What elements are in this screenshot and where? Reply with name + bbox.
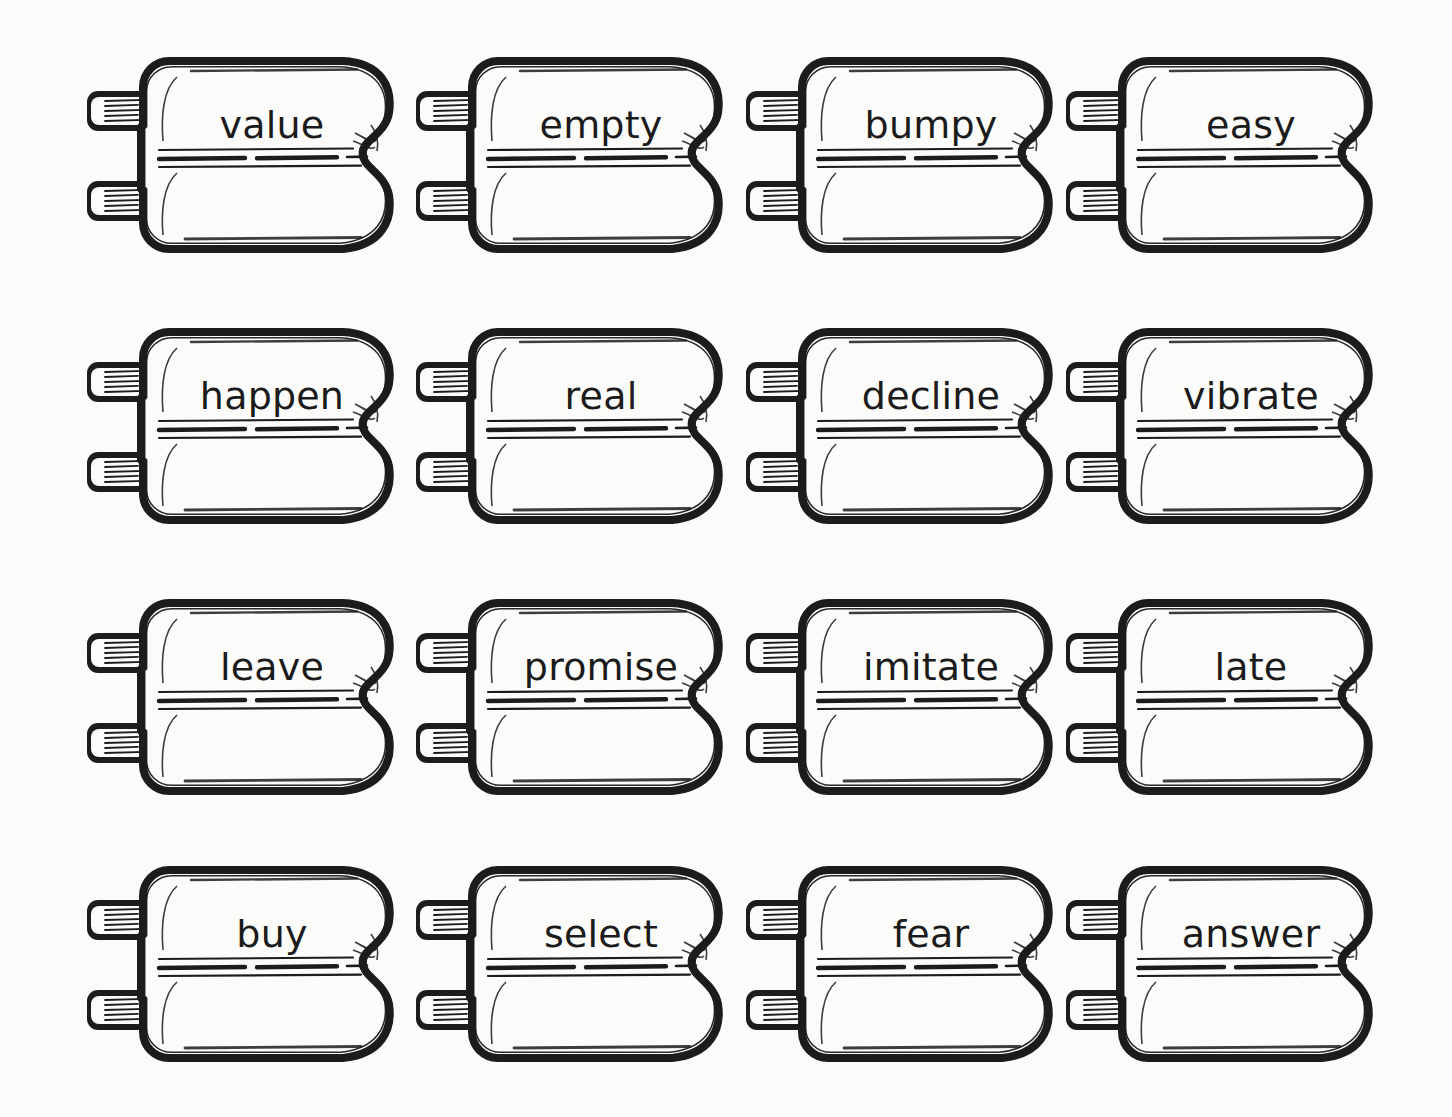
card-shape (1064, 55, 1382, 255)
word-card[interactable]: answer (1064, 864, 1382, 1064)
card-shape (1064, 326, 1382, 526)
word-card[interactable]: vibrate (1064, 326, 1382, 526)
card-shape (85, 864, 403, 1064)
card-shape (744, 55, 1062, 255)
word-card[interactable]: leave (85, 597, 403, 797)
word-card[interactable]: promise (414, 597, 732, 797)
worksheet-sheet: value (0, 0, 1452, 1117)
card-shape (744, 326, 1062, 526)
card-shape (1064, 864, 1382, 1064)
card-shape (85, 597, 403, 797)
card-shape (414, 864, 732, 1064)
word-card[interactable]: late (1064, 597, 1382, 797)
word-card[interactable]: fear (744, 864, 1062, 1064)
card-shape (414, 55, 732, 255)
card-shape (414, 326, 732, 526)
word-card[interactable]: value (85, 55, 403, 255)
word-card[interactable]: select (414, 864, 732, 1064)
card-shape (1064, 597, 1382, 797)
word-card[interactable]: empty (414, 55, 732, 255)
card-shape (744, 597, 1062, 797)
card-shape (85, 326, 403, 526)
word-card[interactable]: buy (85, 864, 403, 1064)
word-card[interactable]: decline (744, 326, 1062, 526)
word-card[interactable]: happen (85, 326, 403, 526)
card-shape (744, 864, 1062, 1064)
card-shape (414, 597, 732, 797)
word-card[interactable]: real (414, 326, 732, 526)
word-card[interactable]: bumpy (744, 55, 1062, 255)
card-shape (85, 55, 403, 255)
word-card[interactable]: easy (1064, 55, 1382, 255)
word-card[interactable]: imitate (744, 597, 1062, 797)
